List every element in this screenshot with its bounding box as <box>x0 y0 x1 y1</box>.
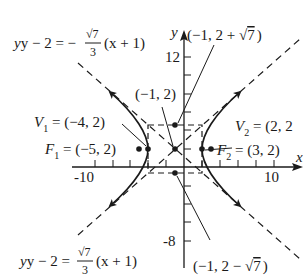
vertex-v1-label: V1 = (−4, 2) <box>34 114 105 134</box>
center-label: (−1, 2) <box>135 86 176 103</box>
focus-f2-label: F2 = (3, 2) <box>216 142 280 162</box>
svg-text:(x + 1): (x + 1) <box>104 35 145 52</box>
leader-center <box>162 107 173 146</box>
svg-text:3: 3 <box>90 45 96 59</box>
x-axis-label: x <box>295 149 303 165</box>
center-point <box>172 146 178 152</box>
hyperbola-diagram: -10 10 x 12 -8 y <box>0 0 303 280</box>
y-axis: 12 -8 y <box>163 24 191 268</box>
bottom-covertex-label: (−1, 2 − √7) <box>193 258 268 275</box>
svg-text:(x + 1): (x + 1) <box>96 253 137 270</box>
svg-text:√7: √7 <box>78 245 91 259</box>
y-axis-label: y <box>169 24 178 40</box>
y-tick-label-12: 12 <box>165 49 180 65</box>
leader-lines <box>122 45 232 240</box>
bottom-covertex-point <box>172 170 178 176</box>
asymptote-equation-upper: yy − 2 = − √7 3 (x + 1) <box>12 27 145 59</box>
svg-text:3: 3 <box>82 263 88 277</box>
x-tick-label-10: 10 <box>264 169 279 185</box>
svg-text:yy − 2 = −: yy − 2 = − <box>12 35 76 51</box>
svg-text:yy − 2 =: yy − 2 = <box>18 253 70 269</box>
vertex-v2-label: V2 = (2, 2 <box>235 118 293 138</box>
focus-f1-point <box>136 146 142 152</box>
top-covertex-label: (−1, 2 + √7) <box>187 27 262 44</box>
leader-v1 <box>122 124 146 146</box>
svg-text:√7: √7 <box>86 27 99 41</box>
vertex-v1-point <box>145 146 151 152</box>
y-tick-label-neg8: -8 <box>163 233 176 249</box>
x-tick-label-neg10: -10 <box>74 169 94 185</box>
focus-f1-label: F1 = (−5, 2) <box>44 141 116 161</box>
vertex-v2-point <box>199 146 205 152</box>
top-covertex-point <box>172 122 178 128</box>
asymptote-equation-lower: yy − 2 = √7 3 (x + 1) <box>18 245 137 277</box>
leader-bottom <box>177 176 210 240</box>
